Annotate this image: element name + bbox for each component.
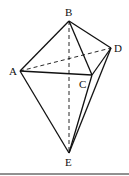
edge-AB xyxy=(20,21,69,71)
edge-AE xyxy=(20,71,69,153)
label-D: D xyxy=(114,42,122,54)
label-A: A xyxy=(9,65,17,77)
label-B: B xyxy=(65,6,72,18)
label-E: E xyxy=(65,156,72,168)
edge-AC xyxy=(20,71,92,75)
label-C: C xyxy=(79,78,86,90)
edge-DE xyxy=(69,48,111,153)
geometry-diagram: B D A C E xyxy=(0,0,129,176)
